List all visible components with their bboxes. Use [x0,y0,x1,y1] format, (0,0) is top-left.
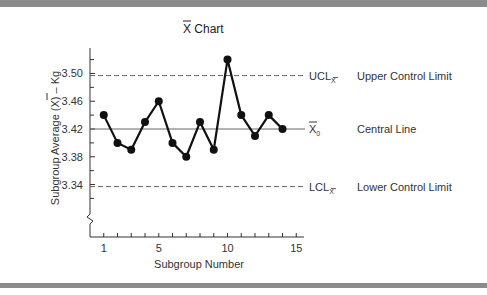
title-text: X Chart [183,22,224,36]
data-point [100,111,108,119]
data-point [141,118,149,126]
chart-title: X Chart [183,21,224,36]
data-series [100,56,287,161]
data-point [127,146,135,154]
x-axis-label: Subgroup Number [154,258,244,270]
x-bar-control-chart: X Chart Subgroup Average (X) – Kg 3.503.… [0,0,487,295]
x-tick-label: 1 [101,242,107,254]
axes: 3.503.463.423.383.34151015 [62,48,304,254]
x-axis-label-text: Subgroup Number [154,258,244,270]
y-tick-label: 3.46 [62,95,83,107]
data-point [279,125,287,133]
x-tick-label: 15 [290,242,302,254]
data-point [155,97,163,105]
data-point [237,111,245,119]
lcl-symbol: LCLX [309,181,334,195]
data-point [210,146,218,154]
y-tick-label: 3.50 [62,67,83,79]
y-axis-label-text: Subgroup Average (X) – Kg [49,71,61,205]
center-description: Central Line [357,123,416,135]
y-tick-label: 3.38 [62,151,83,163]
ucl-symbol: UCLX [309,70,336,84]
data-point [114,139,122,147]
y-tick-label: 3.34 [62,179,83,191]
series-line [104,60,283,157]
data-point [224,56,232,64]
data-point [265,111,273,119]
data-point [251,132,259,140]
x-tick-label: 5 [156,242,162,254]
data-point [196,118,204,126]
ucl-description: Upper Control Limit [357,70,452,82]
y-tick-label: 3.42 [62,123,83,135]
y-axis-label: Subgroup Average (X) – Kg [47,71,61,205]
center-symbol: X0 [309,123,320,137]
data-point [182,153,190,161]
lcl-description: Lower Control Limit [357,181,452,193]
control-lines: UCLXUpper Control LimitX0Central LineLCL… [90,70,452,195]
data-point [169,139,177,147]
x-tick-label: 10 [221,242,233,254]
